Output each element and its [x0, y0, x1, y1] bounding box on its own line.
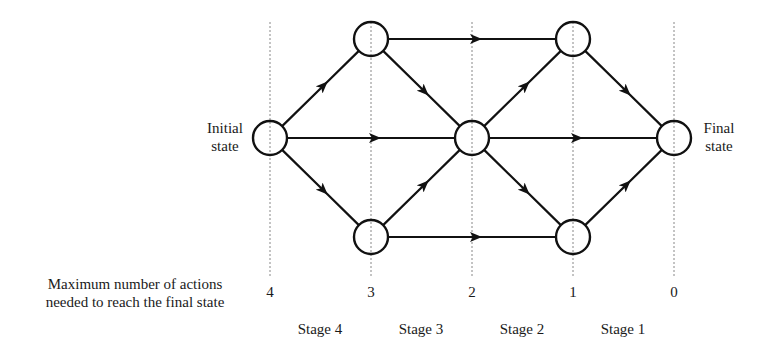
- node-bottom-a: [354, 220, 388, 254]
- initial-label-line2: state: [190, 137, 260, 155]
- edge-middle-to-top-b: [484, 51, 561, 126]
- edge-bottom-b-to-final: [585, 150, 662, 225]
- initial-state-label: Initial state: [190, 119, 260, 155]
- count-4: 4: [260, 283, 280, 301]
- stage-divider-lines: [270, 22, 674, 277]
- edge-top-b-to-final: [585, 51, 662, 126]
- initial-label-line1: Initial: [190, 119, 260, 137]
- axis-caption-line1: Maximum number of actions: [15, 275, 255, 293]
- count-1: 1: [563, 283, 583, 301]
- final-label-line2: state: [694, 137, 744, 155]
- count-2: 2: [462, 283, 482, 301]
- edge-top-a-to-middle: [383, 51, 460, 126]
- count-0: 0: [664, 283, 684, 301]
- axis-caption: Maximum number of actions needed to reac…: [15, 275, 255, 311]
- final-state-label: Final state: [694, 119, 744, 155]
- stage-1-label: Stage 1: [583, 320, 663, 338]
- stage-2-label: Stage 2: [482, 320, 562, 338]
- axis-caption-line2: needed to reach the final state: [15, 293, 255, 311]
- count-3: 3: [361, 283, 381, 301]
- edge-bottom-a-to-middle: [383, 150, 460, 225]
- edge-middle-to-bottom-b: [484, 150, 561, 225]
- stage-4-label: Stage 4: [280, 320, 360, 338]
- edge-initial-to-top-a: [282, 51, 359, 126]
- final-label-line1: Final: [694, 119, 744, 137]
- stage-3-label: Stage 3: [381, 320, 461, 338]
- edge-initial-to-bottom-a: [282, 150, 359, 225]
- node-bottom-b: [556, 220, 590, 254]
